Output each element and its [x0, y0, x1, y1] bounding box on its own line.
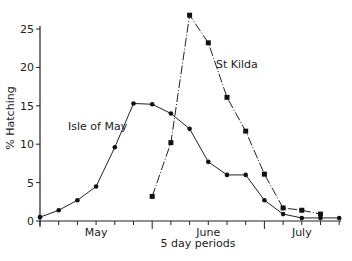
data-point-square [299, 208, 304, 213]
hatching-chart: 0510152025MayJuneJuly % Hatching 5 day p… [0, 0, 352, 261]
data-point-circle [38, 215, 43, 220]
data-point-circle [187, 127, 192, 132]
data-point-square [168, 140, 173, 145]
x-axis-label: 5 day periods [161, 237, 236, 250]
y-tick-label: 0 [27, 215, 34, 228]
data-point-square [187, 13, 192, 18]
data-point-circle [94, 184, 99, 189]
y-tick-label: 20 [20, 61, 34, 74]
data-point-square [243, 129, 248, 134]
x-month-label: July [291, 226, 312, 239]
data-point-circle [281, 212, 286, 217]
y-tick-label: 10 [20, 138, 34, 151]
series-layer [38, 13, 342, 221]
data-point-circle [131, 101, 136, 106]
data-point-square [318, 212, 323, 217]
x-month-label: May [85, 226, 108, 239]
data-point-circle [113, 145, 118, 150]
y-tick-label: 25 [20, 23, 34, 36]
series-label-st-kilda: St Kilda [216, 58, 258, 71]
data-point-square [225, 95, 230, 100]
data-point-square [281, 205, 286, 210]
data-point-circle [243, 173, 248, 178]
y-tick-label: 5 [27, 177, 34, 190]
data-point-square [206, 40, 211, 45]
data-point-circle [150, 102, 155, 107]
data-point-circle [337, 216, 342, 221]
data-point-circle [75, 198, 80, 203]
data-point-square [262, 172, 267, 177]
data-point-circle [262, 198, 267, 203]
data-point-square [150, 194, 155, 199]
y-axis-label: % Hatching [4, 86, 17, 149]
data-point-circle [169, 111, 174, 116]
data-point-circle [56, 208, 61, 213]
data-point-circle [300, 216, 305, 221]
series-line [152, 15, 320, 214]
data-point-circle [225, 173, 230, 178]
y-tick-label: 15 [20, 100, 34, 113]
data-point-circle [206, 160, 211, 165]
series-label-isle-of-may: Isle of May [68, 120, 128, 133]
